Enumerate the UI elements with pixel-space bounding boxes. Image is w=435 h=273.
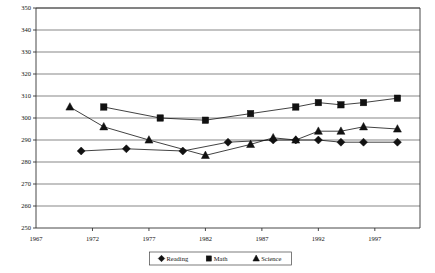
marker-square [360,99,366,105]
series-layer [66,95,402,159]
x-tick-label: 1977 [142,235,156,242]
marker-triangle [269,133,277,140]
series-science [66,103,402,159]
marker-triangle [314,127,322,134]
series-line [70,107,398,155]
gridlines [36,8,420,206]
y-tick-label: 280 [21,158,31,165]
y-tick-label: 320 [21,70,31,77]
x-tick-label: 1982 [199,235,212,242]
legend-label: Reading [167,255,189,262]
x-tick-label: 1972 [86,235,99,242]
marker-diamond [77,147,85,155]
legend-label: Science [261,255,281,262]
marker-diamond [314,136,322,144]
marker-square [247,110,253,116]
marker-diamond [122,145,130,153]
marker-square [157,115,163,121]
marker-triangle [100,122,108,129]
marker-diamond [360,138,368,146]
y-tick-label: 340 [21,26,31,33]
y-tick-label: 260 [21,202,31,209]
marker-square [293,104,299,110]
marker-square [206,256,211,261]
legend-label: Math [214,255,228,262]
x-tick-label: 1992 [312,235,325,242]
marker-triangle [66,103,74,110]
line-chart: 250260270280290300310320330340350 196719… [0,0,435,273]
x-tick-label: 1987 [255,235,269,242]
y-tick-label: 300 [21,114,31,121]
y-tick-label: 330 [21,48,31,55]
chart-legend: ReadingMathScience [150,252,292,265]
x-tick-label: 1997 [368,235,382,242]
legend-item-math[interactable]: Math [206,255,228,262]
series-math [101,95,401,123]
chart-container: 250260270280290300310320330340350 196719… [0,0,435,273]
marker-diamond [393,138,401,146]
x-tick-label: 1967 [30,235,44,242]
y-tick-label: 250 [21,224,31,231]
marker-square [338,102,344,108]
y-axis-tick-labels: 250260270280290300310320330340350 [21,4,36,231]
marker-square [101,104,107,110]
marker-square [202,117,208,123]
marker-diamond [337,138,345,146]
y-tick-label: 310 [21,92,31,99]
y-tick-label: 350 [21,4,31,11]
marker-square [315,99,321,105]
y-tick-label: 270 [21,180,31,187]
marker-triangle [393,125,401,132]
x-axis-tick-labels: 1967197219771982198719921997 [30,235,383,242]
y-tick-label: 290 [21,136,31,143]
series-reading [77,136,401,155]
marker-square [394,95,400,101]
marker-triangle [360,122,368,129]
marker-diamond [224,138,232,146]
